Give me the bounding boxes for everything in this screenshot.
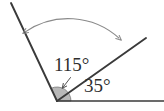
angle-label-115: 115° [54, 55, 89, 74]
angle-label-35: 35° [84, 76, 111, 95]
sweep-arc-between-rays [25, 19, 119, 39]
angle-diagram: 115° 35° [0, 0, 164, 111]
leader-line-115 [63, 78, 71, 89]
upper-left-ray [11, 3, 57, 101]
